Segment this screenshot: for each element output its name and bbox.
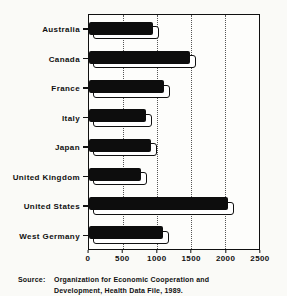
bar-rows bbox=[89, 15, 259, 249]
x-tick-mark bbox=[259, 250, 260, 253]
category-label-row: Australia bbox=[0, 14, 88, 44]
bar-italy bbox=[89, 109, 146, 122]
x-tick: 500 bbox=[115, 250, 130, 263]
category-label-row: West Germany bbox=[0, 221, 88, 251]
x-axis-ticks: 05001000150020002500 bbox=[88, 250, 260, 266]
category-label: Canada bbox=[49, 54, 80, 63]
bar-row bbox=[89, 103, 259, 132]
x-tick-mark bbox=[87, 250, 88, 253]
x-tick-mark bbox=[122, 250, 123, 253]
bar-japan bbox=[89, 139, 151, 152]
bar-france bbox=[89, 80, 164, 93]
category-label: France bbox=[51, 84, 80, 93]
category-label: Japan bbox=[55, 143, 80, 152]
source-note: Source: Organization for Economic Cooper… bbox=[18, 275, 209, 296]
category-label-row: Canada bbox=[0, 44, 88, 74]
category-label: Australia bbox=[42, 25, 80, 34]
bar-row bbox=[89, 44, 259, 73]
bar-united-kingdom bbox=[89, 168, 141, 181]
bar-row bbox=[89, 220, 259, 249]
category-label-row: United States bbox=[0, 191, 88, 221]
plot-area bbox=[88, 14, 260, 250]
category-labels: AustraliaCanadaFranceItalyJapanUnited Ki… bbox=[0, 14, 88, 250]
x-tick-mark bbox=[225, 250, 226, 253]
bar-row bbox=[89, 15, 259, 44]
x-tick-label: 2500 bbox=[250, 254, 269, 263]
x-tick: 1500 bbox=[181, 250, 200, 263]
category-label-row: United Kingdom bbox=[0, 162, 88, 192]
category-label: United States bbox=[24, 202, 80, 211]
bar-chart-figure: AustraliaCanadaFranceItalyJapanUnited Ki… bbox=[0, 0, 287, 296]
category-label: West Germany bbox=[19, 231, 80, 240]
x-tick-label: 1500 bbox=[181, 254, 200, 263]
x-tick-label: 500 bbox=[115, 254, 130, 263]
category-label: Italy bbox=[62, 113, 80, 122]
source-label: Source: bbox=[18, 275, 54, 296]
bar-row bbox=[89, 191, 259, 220]
source-line-1: Organization for Economic Cooperation an… bbox=[54, 275, 209, 286]
x-tick: 2000 bbox=[216, 250, 235, 263]
bar-row bbox=[89, 132, 259, 161]
x-tick: 1000 bbox=[147, 250, 166, 263]
category-label-row: Japan bbox=[0, 132, 88, 162]
x-tick-label: 2000 bbox=[216, 254, 235, 263]
x-tick-mark bbox=[191, 250, 192, 253]
x-tick: 2500 bbox=[250, 250, 269, 263]
bar-row bbox=[89, 74, 259, 103]
category-label: United Kingdom bbox=[13, 172, 80, 181]
source-text: Organization for Economic Cooperation an… bbox=[54, 275, 209, 296]
bar-united-states bbox=[89, 197, 228, 210]
source-line-2: Development, Health Data File, 1989. bbox=[54, 286, 209, 296]
category-label-row: Italy bbox=[0, 103, 88, 133]
x-tick-label: 0 bbox=[86, 254, 91, 263]
chart-body: AustraliaCanadaFranceItalyJapanUnited Ki… bbox=[0, 14, 260, 250]
bar-australia bbox=[89, 22, 153, 35]
bar-canada bbox=[89, 51, 190, 64]
category-label-row: France bbox=[0, 73, 88, 103]
x-tick-label: 1000 bbox=[147, 254, 166, 263]
x-tick: 0 bbox=[86, 250, 91, 263]
bar-row bbox=[89, 161, 259, 190]
x-tick-mark bbox=[156, 250, 157, 253]
bar-west-germany bbox=[89, 226, 163, 239]
